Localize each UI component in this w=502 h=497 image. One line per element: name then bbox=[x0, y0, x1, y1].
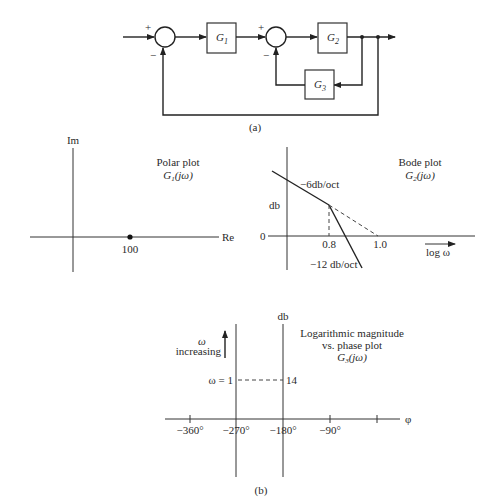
increasing-label: increasing bbox=[176, 345, 222, 357]
zero-label: 0 bbox=[260, 230, 266, 242]
polar-function: G1(jω) bbox=[163, 169, 193, 183]
tick-label-180: −180° bbox=[269, 424, 296, 436]
caption-a: (a) bbox=[249, 121, 262, 134]
tick-label-270: −270° bbox=[222, 424, 249, 436]
bode-title: Bode plot bbox=[398, 156, 441, 168]
figure: + − G1 + − G2 G3 (a) Im Re 100 Polar plo… bbox=[0, 0, 502, 497]
db-axis-label: db bbox=[278, 310, 290, 322]
slope2-label: −12 db/oct bbox=[310, 258, 357, 270]
sum2-plus: + bbox=[258, 21, 264, 33]
logmag-phase-plot: φ db −360° −270° −180° −90° ω = 1 14 ω i… bbox=[165, 310, 411, 477]
bode-plot: 0 db −6db/oct −12 db/oct 0.8 1.0 log ω B… bbox=[260, 147, 475, 270]
tick-label-360: −360° bbox=[176, 424, 203, 436]
sum1-minus: − bbox=[150, 49, 156, 61]
caption-b: (b) bbox=[255, 484, 268, 497]
tick-1-0: 1.0 bbox=[373, 238, 387, 250]
tick-0-8: 0.8 bbox=[322, 238, 336, 250]
value-14-label: 14 bbox=[286, 374, 298, 386]
point-100 bbox=[127, 234, 132, 239]
summing-junction-2 bbox=[266, 27, 286, 47]
summing-junction-1 bbox=[155, 27, 175, 47]
slope1-label: −6db/oct bbox=[300, 178, 339, 190]
logmag-function: G3(jω) bbox=[337, 351, 367, 365]
logmag-title-2: vs. phase plot bbox=[322, 339, 382, 351]
omega-eq-1-label: ω = 1 bbox=[209, 374, 233, 386]
block-diagram: + − G1 + − G2 G3 (a) bbox=[123, 21, 395, 134]
sum1-plus: + bbox=[145, 21, 151, 33]
log-omega-label: log ω bbox=[426, 246, 450, 258]
logmag-title-1: Logarithmic magnitude bbox=[300, 327, 404, 339]
bode-function: G2(jω) bbox=[405, 169, 435, 183]
sum2-minus: − bbox=[263, 49, 269, 61]
phi-label: φ bbox=[405, 413, 411, 425]
inner-feedback-to-sum2 bbox=[276, 48, 305, 85]
im-axis-label: Im bbox=[67, 134, 80, 146]
polar-title: Polar plot bbox=[156, 156, 199, 168]
tick-label-90: −90° bbox=[319, 424, 341, 436]
polar-plot: Im Re 100 Polar plot G1(jω) bbox=[30, 134, 234, 272]
re-axis-label: Re bbox=[222, 231, 234, 243]
point-label: 100 bbox=[122, 243, 139, 255]
db-label: db bbox=[269, 199, 281, 211]
